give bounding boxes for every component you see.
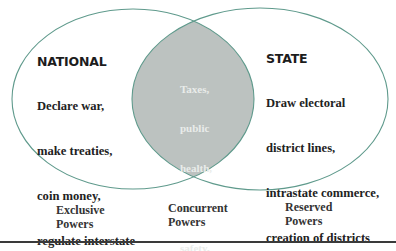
state-heading: STATE — [266, 52, 307, 66]
federalism-venn-diagram: NATIONAL Declare war, make treaties, coi… — [0, 0, 396, 251]
caption-line: Exclusive — [56, 203, 105, 217]
caption-line: Reserved — [285, 200, 332, 214]
caption-reserved-powers: Reserved Powers — [285, 200, 332, 228]
caption-line: Powers — [56, 217, 105, 231]
state-power-item: intrastate commerce, — [266, 186, 379, 201]
caption-concurrent-powers: Concurrent Powers — [168, 201, 228, 229]
caption-line: Powers — [168, 215, 228, 229]
concurrent-power-item: health, — [180, 162, 212, 175]
state-power-item: creation of districts — [266, 231, 379, 246]
caption-line: Powers — [285, 214, 332, 228]
concurrent-power-item: Taxes, — [180, 83, 212, 96]
national-power-item: make treaties, — [37, 144, 135, 159]
caption-line: Concurrent — [168, 201, 228, 215]
national-power-item: Declare war, — [37, 99, 135, 114]
concurrent-power-item: safety, — [180, 242, 212, 251]
bottom-rule — [0, 241, 396, 243]
caption-exclusive-powers: Exclusive Powers — [56, 203, 105, 231]
national-heading: NATIONAL — [37, 55, 106, 69]
state-power-item: district lines, — [266, 141, 379, 156]
national-power-item: coin money, — [37, 189, 135, 204]
state-power-item: Draw electoral — [266, 96, 379, 111]
concurrent-power-item: public — [180, 122, 212, 135]
